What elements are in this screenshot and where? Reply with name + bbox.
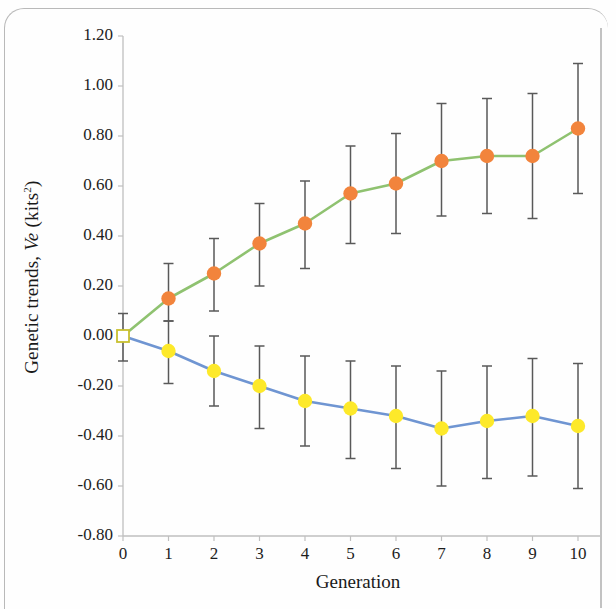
data-point-high-line[interactable] (161, 291, 175, 305)
x-axis-tick-label: 8 (472, 544, 502, 564)
x-axis-tick-label: 10 (563, 544, 593, 564)
y-axis-tick-label: 0.40 (51, 225, 113, 245)
data-point-high-line[interactable] (525, 149, 539, 163)
x-axis-tick-label: 6 (381, 544, 411, 564)
data-point-low-line[interactable] (480, 414, 494, 428)
y-axis-tick-label: 0.60 (51, 175, 113, 195)
data-point-low-line[interactable] (434, 421, 448, 435)
x-axis-tick-label: 5 (336, 544, 366, 564)
x-axis-tick-label: 4 (290, 544, 320, 564)
data-point-high-line[interactable] (480, 149, 494, 163)
y-axis-tick-label: -0.80 (51, 525, 113, 545)
x-axis-tick-label: 3 (245, 544, 275, 564)
data-point-low-line[interactable] (571, 419, 585, 433)
y-axis-title-superscript: 2 (21, 187, 33, 193)
y-axis-tick-label: 0.20 (51, 275, 113, 295)
data-point-low-line[interactable] (298, 394, 312, 408)
x-axis-tick-label: 7 (427, 544, 457, 564)
x-axis-tick-label: 0 (108, 544, 138, 564)
data-point-low-line[interactable] (161, 344, 175, 358)
y-axis-title-pre: Genetic trends, (21, 251, 42, 374)
data-point-low-line[interactable] (207, 364, 221, 378)
y-axis-tick-label: 1.20 (51, 25, 113, 45)
data-point-low-line[interactable] (343, 401, 357, 415)
data-point-low-line[interactable] (525, 409, 539, 423)
x-axis-tick-label: 9 (518, 544, 548, 564)
y-axis-tick-label: -0.60 (51, 475, 113, 495)
data-point-high-line[interactable] (434, 154, 448, 168)
data-point-low-line[interactable] (389, 409, 403, 423)
y-axis-tick-label: 0.80 (51, 125, 113, 145)
data-point-low-line[interactable] (252, 379, 266, 393)
origin-open-square-marker[interactable] (117, 330, 129, 342)
y-axis-title-post: (kits (21, 193, 42, 233)
y-axis-tick-label: -0.40 (51, 425, 113, 445)
y-axis-tick-label: 1.00 (51, 75, 113, 95)
data-point-high-line[interactable] (389, 176, 403, 190)
x-axis-title: Generation (123, 571, 593, 593)
y-axis-tick-label: -0.20 (51, 375, 113, 395)
data-point-high-line[interactable] (207, 266, 221, 280)
chart-page: Genetic trends, Ve (kits2) Generation 1.… (0, 0, 616, 609)
x-axis-tick-label: 2 (199, 544, 229, 564)
y-axis-title-italic: Ve (21, 232, 42, 250)
data-point-high-line[interactable] (343, 186, 357, 200)
x-axis-tick-label: 1 (154, 544, 184, 564)
data-point-high-line[interactable] (571, 121, 585, 135)
data-point-high-line[interactable] (298, 216, 312, 230)
data-point-high-line[interactable] (252, 236, 266, 250)
y-axis-title: Genetic trends, Ve (kits2) (21, 127, 43, 427)
genetic-trends-line-chart: Genetic trends, Ve (kits2) Generation 1.… (0, 0, 616, 609)
y-axis-tick-label: 0.00 (51, 325, 113, 345)
y-axis-title-close: ) (21, 181, 42, 188)
